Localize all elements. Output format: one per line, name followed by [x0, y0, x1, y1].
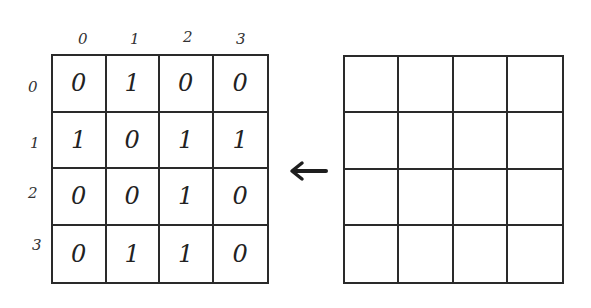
- empty-grid: [343, 55, 564, 284]
- matrix-cell-1-1: 0: [107, 113, 161, 170]
- grid-cell-2-0: [345, 170, 399, 226]
- matrix-cell-2-3: 0: [214, 169, 268, 226]
- grid-cell-0-0: [345, 57, 399, 113]
- left-arrow-icon: [288, 160, 328, 182]
- grid-cell-0-2: [454, 57, 508, 113]
- row-label-3: 3: [32, 236, 42, 254]
- column-label-0: 0: [78, 30, 88, 48]
- row-label-2: 2: [28, 184, 38, 202]
- matrix-cell-3-3: 0: [214, 226, 268, 283]
- matrix-cell-0-3: 0: [214, 56, 268, 113]
- grid-cell-0-3: [508, 57, 562, 113]
- matrix-cell-0-1: 1: [107, 56, 161, 113]
- binary-matrix: 0 1 0 0 1 0 1 1 0 0 1 0 0 1 1 0: [51, 54, 269, 284]
- grid-cell-1-3: [508, 113, 562, 169]
- matrix-cell-0-0: 0: [53, 56, 107, 113]
- grid-cell-2-3: [508, 170, 562, 226]
- grid-cell-3-3: [508, 226, 562, 282]
- matrix-cell-2-2: 1: [160, 169, 214, 226]
- matrix-cell-3-0: 0: [53, 226, 107, 283]
- row-label-0: 0: [28, 78, 38, 96]
- matrix-cell-1-0: 1: [53, 113, 107, 170]
- grid-cell-2-1: [399, 170, 453, 226]
- grid-cell-3-1: [399, 226, 453, 282]
- grid-cell-1-2: [454, 113, 508, 169]
- matrix-cell-1-3: 1: [214, 113, 268, 170]
- matrix-cell-3-1: 1: [107, 226, 161, 283]
- grid-cell-0-1: [399, 57, 453, 113]
- column-label-3: 3: [236, 30, 246, 48]
- matrix-cell-2-0: 0: [53, 169, 107, 226]
- matrix-cell-0-2: 0: [160, 56, 214, 113]
- grid-cell-3-2: [454, 226, 508, 282]
- grid-cell-1-1: [399, 113, 453, 169]
- grid-cell-3-0: [345, 226, 399, 282]
- column-label-2: 2: [183, 28, 193, 46]
- column-label-1: 1: [130, 30, 140, 48]
- grid-cell-2-2: [454, 170, 508, 226]
- row-label-1: 1: [30, 134, 40, 152]
- matrix-cell-1-2: 1: [160, 113, 214, 170]
- matrix-cell-3-2: 1: [160, 226, 214, 283]
- matrix-cell-2-1: 0: [107, 169, 161, 226]
- grid-cell-1-0: [345, 113, 399, 169]
